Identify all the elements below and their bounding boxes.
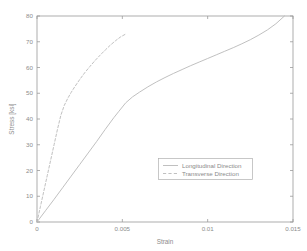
series-solid [37, 16, 284, 222]
y-tick-label: 10 [26, 192, 33, 199]
y-axis-title: Stress [ksi] [8, 103, 16, 134]
series-dashed [37, 34, 126, 222]
x-axis-tick-labels: 00.0050.010.015 [35, 225, 301, 232]
x-tick-label: 0.015 [285, 225, 301, 232]
y-axis-ticks [37, 16, 293, 222]
x-tick-label: 0.005 [115, 225, 131, 232]
legend-label-longitudinal: Longitudinal Direction [182, 162, 242, 169]
x-tick-label: 0 [35, 225, 39, 232]
x-axis-title: Strain [157, 238, 174, 245]
chart-figure: 01020304050607080 00.0050.010.015 Strain… [0, 0, 307, 251]
y-tick-label: 40 [26, 115, 33, 122]
x-axis-ticks [37, 16, 293, 222]
x-tick-label: 0.01 [202, 225, 215, 232]
y-tick-label: 0 [30, 218, 34, 225]
y-tick-label: 20 [26, 167, 33, 174]
y-tick-label: 70 [26, 38, 33, 45]
y-axis-tick-labels: 01020304050607080 [26, 12, 33, 225]
y-tick-label: 30 [26, 141, 33, 148]
y-tick-label: 50 [26, 89, 33, 96]
data-series-group [37, 16, 284, 222]
y-tick-label: 60 [26, 64, 33, 71]
legend-label-transverse: Transverse Direction [182, 170, 239, 177]
plot-frame [37, 16, 293, 222]
chart-legend[interactable]: Longitudinal Direction Transverse Direct… [159, 159, 253, 180]
y-tick-label: 80 [26, 12, 33, 19]
stress-strain-plot: 01020304050607080 00.0050.010.015 Strain… [0, 0, 307, 251]
